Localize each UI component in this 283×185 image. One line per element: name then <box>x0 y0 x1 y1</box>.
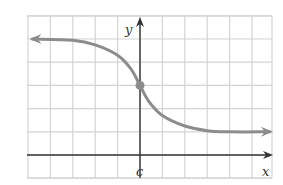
chart: y x c <box>0 0 283 185</box>
inflection-point <box>136 81 145 90</box>
x-axis-label: x <box>262 164 270 179</box>
c-tick-label: c <box>136 164 144 179</box>
y-axis-label: y <box>124 22 133 37</box>
